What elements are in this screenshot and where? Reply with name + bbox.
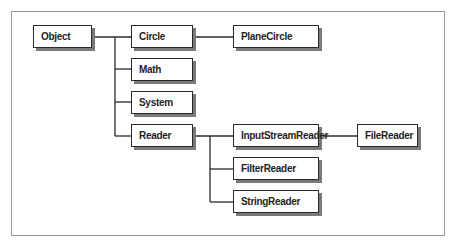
node-math: Math xyxy=(131,58,193,81)
node-circle: Circle xyxy=(131,25,193,48)
node-input-stream-reader: InputStreamReader xyxy=(233,124,319,147)
node-reader: Reader xyxy=(131,124,193,147)
node-filter-reader: FilterReader xyxy=(233,157,319,180)
node-object: Object xyxy=(33,25,92,48)
node-plane-circle: PlaneCircle xyxy=(233,25,319,48)
node-string-reader: StringReader xyxy=(233,190,319,213)
node-file-reader: FileReader xyxy=(357,124,418,147)
node-system: System xyxy=(131,91,193,114)
